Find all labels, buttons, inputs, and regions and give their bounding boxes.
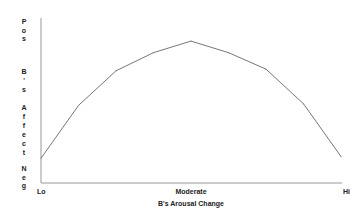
y-tick-label-neg: Neg <box>21 165 26 190</box>
y-axis-label-char: t <box>23 149 26 156</box>
y-axis-label-char: B <box>21 68 26 75</box>
data-point <box>228 52 229 53</box>
x-tick-label-hi: Hi <box>343 188 350 195</box>
y-axis-labels: PosB'sAffectNeg <box>21 18 26 190</box>
data-point <box>303 103 304 104</box>
data-point <box>78 105 79 106</box>
data-point <box>41 158 42 159</box>
chart: Lo Moderate Hi B's Arousal Change PosB's… <box>0 0 364 216</box>
series-layer <box>41 41 342 159</box>
y-axis-label-char: A <box>21 104 26 111</box>
y-axis-label-char: c <box>22 140 26 147</box>
data-point <box>266 69 267 70</box>
y-tick-label-neg-char: e <box>22 174 26 181</box>
x-tick-label-moderate: Moderate <box>175 188 206 195</box>
y-axis-label-char: s <box>22 86 26 93</box>
y-tick-label-neg-char: N <box>21 165 26 172</box>
y-axis-label-char: f <box>23 113 26 120</box>
data-point <box>116 70 117 71</box>
y-tick-label-neg-char: g <box>22 182 26 190</box>
y-tick-label-pos-char: o <box>22 27 26 34</box>
y-axis-label-char: e <box>22 131 26 138</box>
y-axis-label-char: ' <box>23 77 25 84</box>
y-tick-label-pos-char: P <box>22 18 27 25</box>
x-tick-label-lo: Lo <box>37 188 46 195</box>
x-axis-label: B's Arousal Change <box>158 200 224 208</box>
data-point <box>153 52 154 53</box>
y-tick-label-pos: Pos <box>22 18 27 42</box>
y-tick-label-pos-char: s <box>22 35 26 42</box>
y-axis-label: B'sAffect <box>21 68 26 156</box>
y-axis-label-char: f <box>23 122 26 129</box>
series-line-0 <box>41 41 341 158</box>
data-point <box>191 41 192 42</box>
data-point <box>341 156 342 157</box>
